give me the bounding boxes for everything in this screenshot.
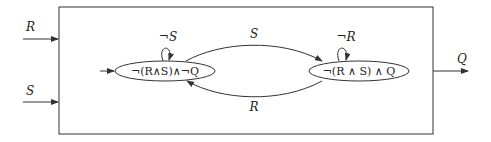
input-r-label: R (25, 20, 35, 34)
transition-r-label: R (248, 100, 258, 114)
state-not-q-label: ¬(R∧S)∧¬Q (131, 65, 199, 78)
transition-s-label: S (250, 27, 258, 41)
input-r: R (23, 20, 58, 39)
state-machine-diagram: R S Q ¬(R∧S)∧¬Q ¬S ¬(R ∧ S) ∧ Q ¬R S R (0, 0, 491, 142)
state-q: ¬(R ∧ S) ∧ Q ¬R (309, 30, 409, 81)
state-q-label: ¬(R ∧ S) ∧ Q (323, 65, 396, 78)
input-s-label: S (26, 84, 34, 98)
output-q: Q (433, 52, 468, 71)
self-loop-not-r-arrow (338, 48, 347, 61)
transition-s-arrow (186, 45, 322, 61)
output-q-label: Q (457, 52, 467, 66)
self-loop-not-s-arrow (162, 48, 170, 61)
state-not-q: ¬(R∧S)∧¬Q ¬S (115, 30, 215, 81)
transition-r-arrow (187, 81, 322, 97)
input-s: S (23, 84, 58, 102)
self-loop-not-s-label: ¬S (159, 30, 177, 44)
self-loop-not-r-label: ¬R (336, 30, 355, 44)
